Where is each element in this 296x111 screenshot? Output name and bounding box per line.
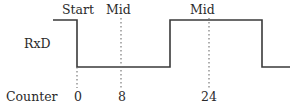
signal-label-rxd: RxD [24, 38, 50, 51]
rxd-signal-trace [53, 20, 290, 67]
counter-tick-label-8: 8 [114, 91, 130, 104]
counter-tick-label-24: 24 [198, 91, 220, 104]
annotation-mid-first: Mid [106, 4, 131, 17]
annotation-start: Start [62, 4, 94, 17]
axis-label-counter: Counter [6, 91, 58, 104]
counter-tick-label-0: 0 [70, 91, 86, 104]
annotation-mid-second: Mid [190, 4, 215, 17]
timing-diagram-figure: RxD Counter Start Mid Mid 0 8 24 [0, 0, 296, 111]
